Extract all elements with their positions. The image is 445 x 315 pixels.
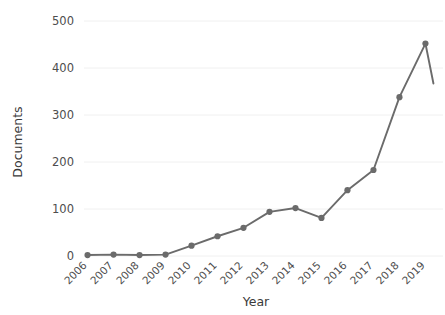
data-point-2017 <box>370 167 376 173</box>
data-point-2016 <box>344 187 350 193</box>
y-tick-label: 100 <box>52 202 74 216</box>
data-point-2013 <box>266 209 272 215</box>
y-axis-title: Documents <box>10 106 25 177</box>
data-point-2006 <box>84 252 90 258</box>
y-tick-label: 400 <box>52 61 74 75</box>
y-tick-label: 200 <box>52 155 74 169</box>
data-point-2019 <box>422 40 428 46</box>
y-tick-label: 500 <box>52 14 74 28</box>
data-point-2015 <box>318 215 324 221</box>
y-tick-label: 0 <box>67 249 74 263</box>
line-chart: 0100200300400500 20062007200820092010201… <box>0 0 445 315</box>
data-point-2009 <box>162 251 168 257</box>
chart-canvas: 0100200300400500 20062007200820092010201… <box>0 0 445 315</box>
data-point-2014 <box>292 205 298 211</box>
data-point-2010 <box>188 243 194 249</box>
data-point-2018 <box>396 94 402 100</box>
data-point-2008 <box>136 252 142 258</box>
data-point-2011 <box>214 233 220 239</box>
data-point-2012 <box>240 225 246 231</box>
y-tick-label: 300 <box>52 108 74 122</box>
x-axis-title: Year <box>242 294 270 309</box>
data-point-2007 <box>110 251 116 257</box>
